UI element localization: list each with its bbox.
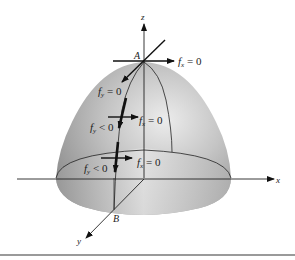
paraboloid-diagram: z x y A B fx = 0 fy = 0 fy < 0 fx = 0 fy… bbox=[0, 0, 295, 260]
fx-top-label: fx = 0 bbox=[178, 55, 202, 69]
paraboloid-surface bbox=[56, 62, 231, 215]
point-B-label: B bbox=[113, 213, 119, 224]
x-axis-label: x bbox=[275, 175, 280, 185]
bottom-divider bbox=[0, 254, 295, 256]
z-axis-label: z bbox=[140, 12, 145, 22]
point-A-label: A bbox=[133, 50, 141, 61]
y-axis-label: y bbox=[76, 236, 81, 246]
